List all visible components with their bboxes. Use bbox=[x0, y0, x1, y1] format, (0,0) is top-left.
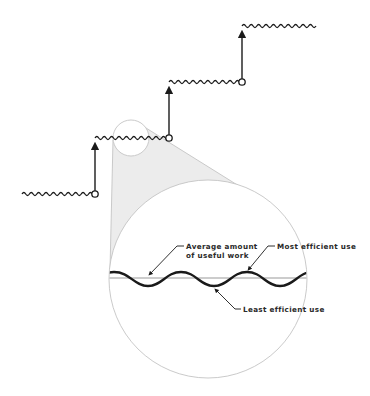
node-circle-icon bbox=[239, 79, 245, 85]
label-least-efficient-use: Least efficient use bbox=[243, 305, 325, 314]
node-circle-icon bbox=[92, 191, 98, 197]
energy-staircase-diagram: Average amount of useful work Most effic… bbox=[0, 0, 370, 396]
label-average-amount: Average amount bbox=[186, 242, 258, 251]
wavy-level-1 bbox=[22, 193, 96, 196]
magnified-detail-circle bbox=[109, 180, 307, 378]
label-most-efficient-use: Most efficient use bbox=[277, 242, 356, 251]
label-of-useful-work: of useful work bbox=[186, 251, 249, 260]
wavy-level-4 bbox=[242, 25, 316, 28]
node-circle-icon bbox=[166, 135, 172, 141]
wavy-level-2 bbox=[95, 137, 169, 140]
wavy-level-3 bbox=[169, 81, 243, 84]
